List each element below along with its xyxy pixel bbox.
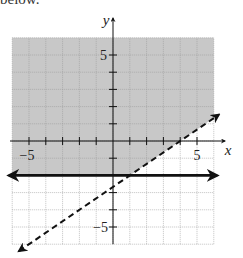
y-tick-label-5: 5 — [100, 48, 107, 63]
inequality-graph: −555−5xy — [0, 0, 243, 258]
x-tick-label-neg5: −5 — [20, 148, 35, 163]
x-axis-label: x — [224, 142, 232, 158]
y-tick-label-neg5: −5 — [93, 220, 108, 235]
y-axis-label: y — [101, 12, 110, 28]
x-tick-label-5: 5 — [194, 148, 201, 163]
